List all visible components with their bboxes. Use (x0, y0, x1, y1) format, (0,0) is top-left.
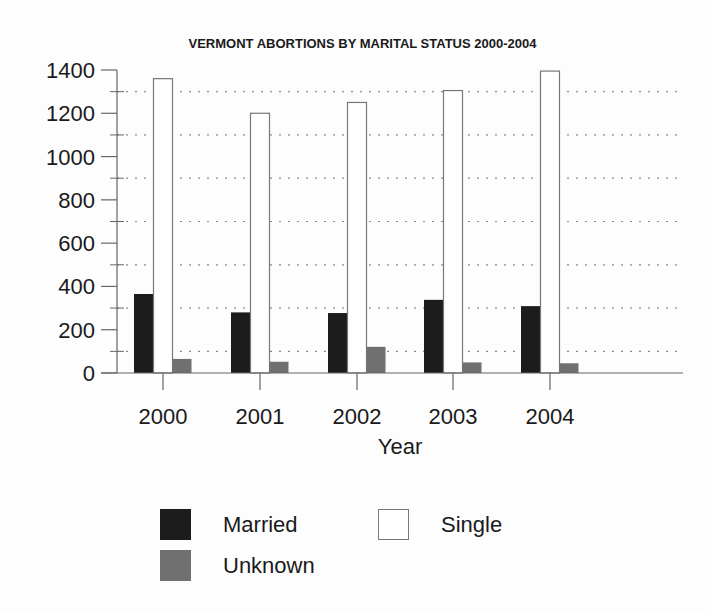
bar-unknown-2002 (367, 347, 386, 373)
bar-single-2000 (154, 79, 173, 373)
legend-label-unknown: Unknown (223, 553, 315, 579)
bar-single-2002 (348, 102, 367, 373)
x-axis-ticks: 20002001200220032004 (139, 373, 575, 429)
legend-swatch-married (160, 509, 191, 540)
bar-married-2003 (424, 300, 443, 373)
bar-married-2002 (328, 313, 347, 373)
legend-item-married: Married (160, 509, 298, 540)
legend-swatch-single (378, 509, 409, 540)
legend-item-unknown: Unknown (160, 550, 315, 581)
y-axis-ticks: 0200400600800100012001400 (46, 58, 124, 386)
x-tick-label: 2000 (139, 404, 188, 429)
legend-label-married: Married (223, 512, 298, 538)
y-tick-label: 1400 (46, 58, 95, 83)
bars (134, 71, 579, 373)
legend: Married Unknown Single (160, 509, 560, 589)
x-tick-label: 2002 (333, 404, 382, 429)
legend-item-single: Single (378, 509, 502, 540)
bar-single-2003 (444, 91, 463, 373)
x-tick-label: 2001 (236, 404, 285, 429)
y-tick-label: 0 (83, 361, 95, 386)
bar-married-2000 (134, 294, 153, 373)
bar-married-2001 (231, 312, 250, 373)
y-tick-label: 1200 (46, 101, 95, 126)
gridlines (117, 92, 683, 352)
y-tick-label: 600 (58, 231, 95, 256)
x-tick-label: 2004 (526, 404, 575, 429)
bar-unknown-2003 (463, 362, 482, 373)
bar-married-2004 (521, 306, 540, 373)
y-tick-label: 400 (58, 274, 95, 299)
y-tick-label: 1000 (46, 145, 95, 170)
bar-unknown-2000 (173, 359, 192, 373)
legend-swatch-unknown (160, 550, 191, 581)
x-tick-label: 2003 (429, 404, 478, 429)
bar-single-2004 (541, 71, 560, 373)
y-tick-label: 800 (58, 188, 95, 213)
bar-unknown-2001 (270, 362, 289, 373)
bar-unknown-2004 (560, 363, 579, 373)
y-tick-label: 200 (58, 318, 95, 343)
bar-single-2001 (251, 113, 270, 373)
x-axis-label: Year (378, 434, 422, 459)
legend-label-single: Single (441, 512, 502, 538)
